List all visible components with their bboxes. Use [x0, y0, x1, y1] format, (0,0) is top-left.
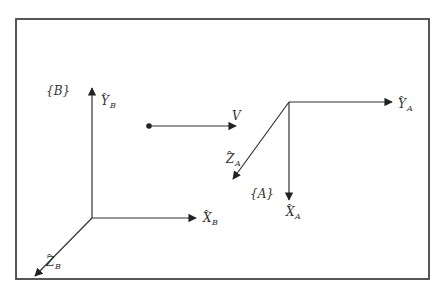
frame-b-label: {B} [46, 84, 70, 98]
frame-a-z-axis-arrow [233, 102, 289, 179]
svg-text:A: A [294, 212, 301, 221]
frame-b: {B} Y ^ B X ^ B Z ^ B [35, 84, 218, 276]
frame-a-y-label: Y ^ A [398, 94, 413, 113]
velocity-vector: V [146, 109, 242, 129]
diagram-border [16, 19, 429, 279]
frame-b-y-label: Y ^ B [101, 91, 116, 110]
frame-a-z-label: Z ^ A [225, 149, 241, 168]
svg-text:^: ^ [46, 252, 53, 261]
svg-text:A: A [406, 104, 413, 113]
svg-text:B: B [54, 262, 61, 271]
svg-text:^: ^ [398, 94, 405, 103]
svg-text:^: ^ [226, 149, 233, 158]
frame-b-z-label: Z ^ B [45, 252, 61, 271]
frame-b-x-label: X ^ B [202, 208, 218, 227]
frame-a-x-label: X ^ A [285, 202, 301, 221]
velocity-label: V [232, 109, 242, 123]
svg-text:B: B [109, 101, 116, 110]
svg-text:^: ^ [101, 91, 108, 100]
frame-a-label: {A} [250, 187, 274, 201]
frame-a: {A} Y ^ A X ^ A Z ^ A [225, 94, 413, 221]
frame-b-z-axis-arrow [35, 218, 92, 276]
coordinate-frames-diagram: {B} Y ^ B X ^ B Z ^ B V {A} Y ^ A [0, 0, 440, 293]
svg-text:A: A [234, 159, 241, 168]
svg-text:B: B [211, 218, 218, 227]
svg-text:^: ^ [203, 208, 210, 217]
svg-text:^: ^ [286, 202, 293, 211]
